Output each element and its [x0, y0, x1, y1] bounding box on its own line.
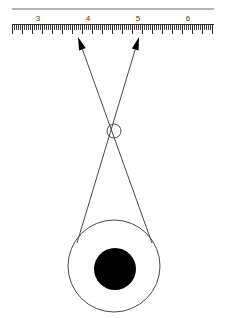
- ruler-label: 5: [136, 14, 141, 23]
- left-ray-line: [82, 49, 152, 243]
- ruler-label: 6: [186, 14, 191, 23]
- ruler-label: 3: [36, 14, 41, 23]
- nodal-point-circle: [107, 124, 121, 138]
- right-ray-line: [77, 49, 135, 243]
- left-ray-arrowhead-icon: [78, 37, 86, 50]
- optics-diagram-figure: 3456: [0, 0, 226, 318]
- diagram-canvas: 3456: [0, 0, 226, 318]
- eye-group: [68, 220, 160, 312]
- ruler-label: 4: [86, 14, 91, 23]
- ruler-number-labels: 3456: [36, 14, 191, 23]
- ruler-tick-marks: [13, 24, 213, 34]
- eye-pupil-circle: [94, 248, 136, 290]
- right-ray-arrowhead-icon: [132, 37, 139, 50]
- rays-group: [77, 37, 152, 243]
- ruler-group: 3456: [12, 9, 214, 34]
